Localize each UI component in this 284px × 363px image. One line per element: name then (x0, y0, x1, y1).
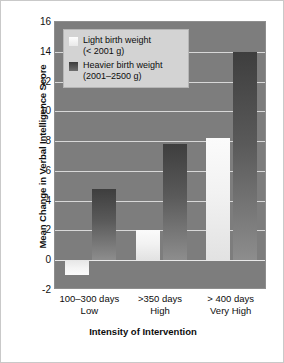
bar (233, 52, 257, 260)
y-axis-tick: 10 (25, 105, 51, 116)
bar (136, 230, 160, 260)
x-tick-line1: > 400 days (195, 293, 266, 305)
x-axis-tick: >350 daysHigh (125, 293, 196, 317)
y-axis-tick-labels: 1614121086420-2 (25, 1, 51, 363)
legend-label-line1: Heavier birth weight (83, 60, 163, 70)
legend-swatch-light-icon (69, 37, 78, 46)
bar (206, 138, 230, 260)
legend-item-light-birth-weight: Light birth weight (< 2001 g) (69, 35, 182, 57)
y-axis-tick: 0 (25, 254, 51, 265)
bar (65, 260, 89, 275)
bar (163, 144, 187, 260)
x-tick-line2: Low (54, 305, 125, 317)
x-tick-line1: >350 days (125, 293, 196, 305)
y-axis-tick: 2 (25, 224, 51, 235)
y-axis-tick: 8 (25, 135, 51, 146)
bar (92, 189, 116, 260)
chart-legend: Light birth weight (< 2001 g) Heavier bi… (63, 29, 189, 88)
x-axis-tick-labels: 100–300 daysLow>350 daysHigh> 400 daysVe… (54, 293, 266, 323)
x-tick-line1: 100–300 days (54, 293, 125, 305)
chart-figure: Mean Change in Verbal Intelligence Score… (0, 0, 284, 363)
x-axis-title: Intensity of Intervention (1, 326, 284, 337)
x-tick-line2: Very High (195, 305, 266, 317)
y-axis-tick: -2 (25, 284, 51, 295)
legend-label-line2: (< 2001 g) (83, 46, 124, 56)
y-axis-tick: 6 (25, 164, 51, 175)
x-axis-tick: 100–300 daysLow (54, 293, 125, 317)
y-axis-tick: 12 (25, 75, 51, 86)
y-axis-tick: 14 (25, 45, 51, 56)
legend-item-label: Light birth weight (< 2001 g) (83, 35, 151, 57)
x-tick-line2: High (125, 305, 196, 317)
y-axis-tick: 4 (25, 194, 51, 205)
legend-label-line1: Light birth weight (83, 35, 151, 45)
y-axis-tick: 16 (25, 16, 51, 27)
legend-swatch-dark-icon (69, 62, 78, 71)
legend-item-label: Heavier birth weight (2001–2500 g) (83, 60, 163, 82)
legend-item-heavier-birth-weight: Heavier birth weight (2001–2500 g) (69, 60, 182, 82)
x-axis-tick: > 400 daysVery High (195, 293, 266, 317)
legend-label-line2: (2001–2500 g) (83, 71, 142, 81)
